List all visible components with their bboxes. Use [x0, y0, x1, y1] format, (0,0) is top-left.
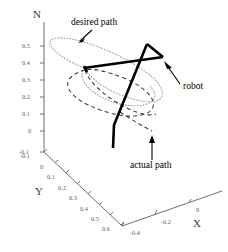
tick-label-y-7: 0.6 — [102, 225, 110, 232]
annotation-label-actual-path: actual path — [130, 160, 172, 170]
axis-ticks-n — [40, 46, 44, 152]
tick-label-n-5: 0 — [28, 127, 31, 134]
tick-label-y-6: 0.5 — [91, 215, 99, 222]
figure-3d-robot-path-plot: 0.5 0.4 0.3 0.2 0.1 0 -0.1 -0.1 0 0.1 0.… — [0, 0, 228, 252]
plot-canvas: 0.5 0.4 0.3 0.2 0.1 0 -0.1 -0.1 0 0.1 0.… — [0, 0, 228, 252]
tick-label-x-1: -0.2 — [161, 218, 171, 225]
tick-label-x-0: -0.4 — [130, 229, 140, 236]
tick-label-n-3: 0.2 — [22, 93, 30, 100]
series-actual-path — [68, 69, 156, 131]
tick-label-n-4: 0.1 — [22, 110, 30, 117]
robot-triangle-upper-link — [147, 44, 163, 57]
tick-label-n-0: 0.5 — [22, 42, 30, 49]
tick-label-x-2: 0 — [196, 206, 199, 213]
tick-label-n-2: 0.3 — [22, 76, 30, 83]
annotation-actual-path: actual path — [130, 135, 172, 170]
annotation-leader-desired-path — [80, 30, 92, 41]
annotation-robot: robot — [164, 61, 203, 91]
axis-group: 0.5 0.4 0.3 0.2 0.1 0 -0.1 -0.1 0 0.1 0.… — [19, 8, 222, 236]
actual-path-curve — [68, 69, 154, 116]
tick-label-y-3: 0.2 — [58, 184, 66, 191]
tick-label-y-5: 0.4 — [80, 205, 88, 212]
tick-label-n-1: 0.4 — [22, 59, 30, 66]
axis-name-y: Y — [35, 185, 43, 197]
tick-label-y-4: 0.3 — [69, 194, 77, 201]
axis-ticks-y — [44, 149, 124, 225]
axis-name-n: N — [33, 8, 41, 20]
axis-name-x: X — [193, 217, 201, 229]
tick-label-y-2: 0.1 — [47, 173, 55, 180]
robot-leg-link — [113, 44, 147, 148]
annotation-desired-path: desired path — [71, 17, 117, 43]
arrowhead-robot-icon — [164, 61, 172, 69]
annotation-label-robot: robot — [183, 81, 203, 91]
annotation-label-desired-path: desired path — [71, 17, 117, 27]
actual-path-curve-tail — [120, 112, 152, 131]
arrowhead-actual-path-icon — [149, 135, 155, 143]
tick-label-y-1: 0 — [40, 163, 43, 170]
axis-line-x — [122, 191, 222, 226]
desired-path-curve-inner — [82, 68, 155, 106]
tick-label-y-0: -0.1 — [20, 152, 30, 159]
